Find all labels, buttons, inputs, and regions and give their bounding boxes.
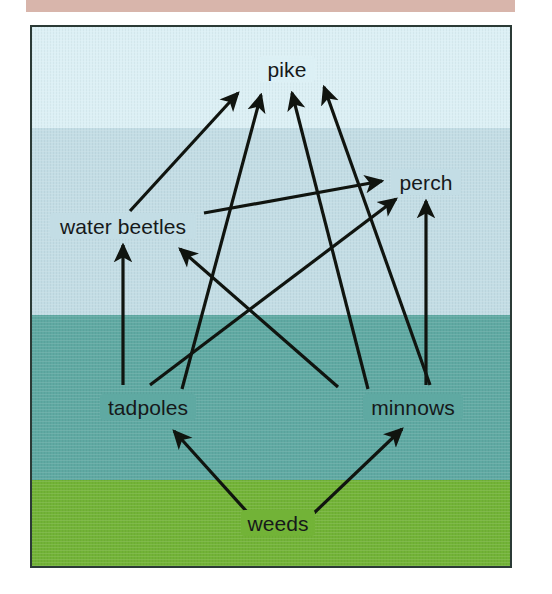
- node-label-pike[interactable]: pike: [268, 59, 307, 80]
- food-web-arrows: [32, 27, 510, 566]
- arrow-minnows-to-pike-inner: [292, 93, 368, 389]
- node-label-perch[interactable]: perch: [399, 172, 452, 193]
- arrow-weeds-to-tadpoles: [174, 431, 248, 513]
- arrow-weeds-to-minnows: [314, 429, 402, 513]
- arrow-water-beetles-to-pike: [130, 93, 238, 211]
- node-label-tadpoles[interactable]: tadpoles: [108, 397, 188, 418]
- figure-stage: pike perch water beetles tadpoles minnow…: [0, 0, 552, 594]
- arrow-water-beetles-to-perch: [204, 181, 382, 213]
- arrow-minnows-to-water-beetles: [180, 249, 338, 387]
- node-label-minnows[interactable]: minnows: [371, 397, 455, 418]
- decorative-top-band: [26, 0, 515, 12]
- food-web-panel: pike perch water beetles tadpoles minnow…: [30, 25, 512, 568]
- node-label-weeds[interactable]: weeds: [247, 513, 308, 534]
- arrow-minnows-to-pike-outer: [324, 87, 430, 385]
- node-label-water-beetles[interactable]: water beetles: [60, 216, 186, 237]
